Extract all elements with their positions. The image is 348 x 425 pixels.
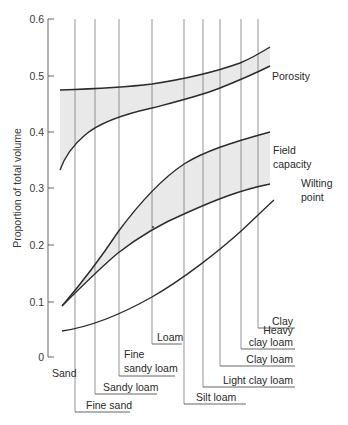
y-tick-0.2: 0.2 bbox=[29, 239, 44, 251]
soil-label-clay: Clay bbox=[272, 315, 294, 327]
wilting-point-label-line1: Wilting bbox=[301, 177, 333, 189]
soil-label-light-clay-loam: Light clay loam bbox=[223, 374, 293, 386]
y-tick-0: 0 bbox=[38, 351, 44, 363]
soil-label-fine-sandy-loam-line1: Fine bbox=[124, 348, 145, 360]
field-capacity-label-line1: Field bbox=[273, 144, 296, 156]
wilting-point-label-line2: point bbox=[301, 191, 324, 203]
field-capacity-band bbox=[62, 132, 270, 306]
y-tick-0.5: 0.5 bbox=[29, 70, 44, 82]
y-axis bbox=[48, 19, 54, 357]
data-dot bbox=[152, 226, 154, 228]
y-tick-0.3: 0.3 bbox=[29, 182, 44, 194]
soil-water-chart: 0.6 0.5 0.4 0.3 0.2 0.1 0 Proportion of … bbox=[0, 0, 348, 425]
soil-label-heavy-clay-loam-line2: clay loam bbox=[249, 336, 294, 348]
y-tick-0.6: 0.6 bbox=[29, 13, 44, 25]
soil-label-fine-sand: Fine sand bbox=[86, 399, 132, 411]
soil-label-sandy-loam: Sandy loam bbox=[103, 381, 159, 393]
y-axis-title: Proportion of total volume bbox=[11, 128, 23, 248]
y-tick-0.4: 0.4 bbox=[29, 126, 44, 138]
soil-label-sand: Sand bbox=[52, 367, 77, 379]
soil-label-clay-loam: Clay loam bbox=[246, 353, 293, 365]
y-tick-labels: 0.6 0.5 0.4 0.3 0.2 0.1 0 bbox=[29, 13, 44, 363]
field-capacity-label-line2: capacity bbox=[273, 158, 312, 170]
soil-label-silt-loam: Silt loam bbox=[196, 391, 237, 403]
y-tick-0.1: 0.1 bbox=[29, 296, 44, 308]
soil-label-loam: Loam bbox=[157, 331, 184, 343]
soil-label-fine-sandy-loam-line2: sandy loam bbox=[124, 362, 178, 374]
porosity-label: Porosity bbox=[272, 70, 311, 82]
